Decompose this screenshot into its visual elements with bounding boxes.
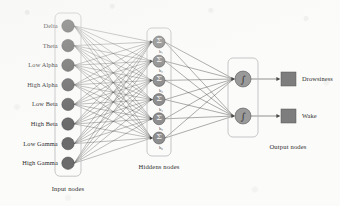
output-label-wake: Wake	[302, 112, 317, 119]
hidden-node-2	[153, 74, 165, 86]
hidden-bias-label-5: b₆	[153, 145, 169, 150]
output-label-drowsiness: Drowsiness	[302, 75, 333, 82]
output-group-label: Output nodes	[253, 143, 323, 150]
hidden-node-0	[153, 36, 165, 48]
input-node-4	[62, 98, 74, 110]
input-node-1	[62, 39, 74, 51]
hidden-bias-label-2: b₃	[153, 88, 169, 93]
input-label-5: High Beta	[31, 120, 58, 127]
hidden-node-1	[153, 55, 165, 67]
output-layer-container	[228, 58, 258, 137]
hidden-bias-label-0: b₁	[153, 49, 169, 54]
input-node-2	[62, 59, 74, 71]
input-label-4: Low Beta	[32, 100, 58, 107]
input-layer-container	[55, 13, 81, 176]
input-label-0: Delta	[43, 22, 57, 29]
hidden-node-5	[153, 132, 165, 144]
neural-network-diagram: Delta Theta Low Alpha High Alpha Low Bet…	[0, 0, 340, 206]
hidden-bias-label-4: b₅	[153, 126, 169, 131]
input-node-5	[62, 118, 74, 130]
output-square-0	[281, 72, 296, 86]
input-node-7	[62, 157, 74, 169]
hidden-bias-label-1: b₂	[153, 68, 169, 73]
input-node-6	[62, 137, 74, 149]
hidden-node-4	[153, 113, 165, 125]
input-label-7: High Gamma	[22, 159, 58, 166]
input-label-6: Low Gamma	[23, 140, 57, 147]
input-group-label: Input nodes	[33, 185, 103, 192]
input-label-2: Low Alpha	[28, 61, 57, 68]
hidden-group-label: Hiddens nodes	[124, 163, 194, 170]
output-square-1	[281, 109, 296, 123]
hidden-node-3	[153, 94, 165, 106]
output-node-0	[235, 71, 251, 87]
hidden-bias-label-3: b₄	[153, 107, 169, 112]
input-node-3	[62, 79, 74, 91]
input-label-1: Theta	[43, 42, 58, 49]
output-node-1	[235, 108, 251, 124]
input-label-3: High Alpha	[27, 81, 58, 88]
input-node-0	[62, 20, 74, 32]
